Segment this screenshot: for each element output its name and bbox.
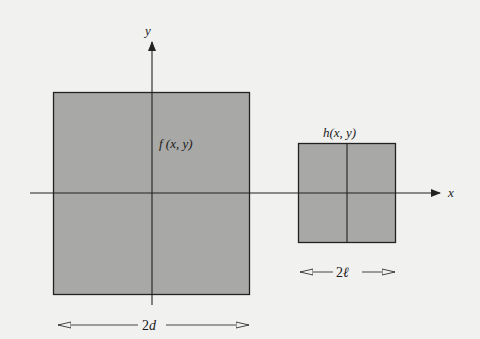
x-axis-label: x bbox=[447, 185, 454, 200]
region-f-label: f (x, y) bbox=[159, 136, 193, 151]
dimension-2l-label: 2ℓ bbox=[336, 265, 349, 280]
region-h-label: h(x, y) bbox=[323, 125, 356, 140]
dimension-2d-label: 2d bbox=[142, 318, 157, 333]
y-axis-label: y bbox=[143, 23, 151, 38]
diagram-canvas: y x f (x, y) h(x, y) 2d 2ℓ bbox=[0, 0, 480, 339]
